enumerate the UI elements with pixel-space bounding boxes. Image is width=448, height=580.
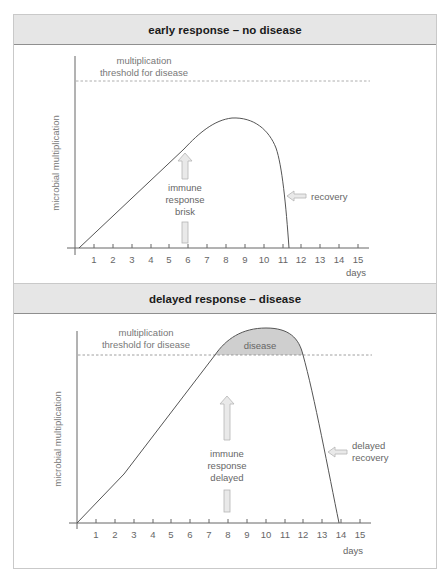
recovery-label-line1: delayed (352, 440, 385, 451)
x-ticks (94, 244, 358, 248)
y-axis-label: microbial multiplication (50, 115, 61, 211)
x-axis-label: days (346, 267, 366, 278)
panel-title: early response – no disease (148, 24, 301, 36)
x-ticks (96, 519, 360, 523)
svg-text:14: 14 (336, 529, 347, 540)
svg-text:2: 2 (112, 529, 117, 540)
svg-text:14: 14 (334, 254, 345, 265)
svg-text:6: 6 (187, 529, 192, 540)
y-axis-label: microbial multiplication (52, 391, 63, 487)
early-response-panel: early response – no disease 12 34 56 78 … (13, 14, 437, 284)
panel-header: early response – no disease (14, 15, 436, 45)
left-arrow-icon (287, 191, 306, 201)
recovery-label: recovery (311, 191, 348, 202)
svg-text:8: 8 (225, 529, 230, 540)
svg-text:15: 15 (353, 254, 364, 265)
x-axis-label: days (343, 545, 363, 556)
growth-curve (77, 328, 339, 523)
svg-text:7: 7 (206, 529, 211, 540)
svg-text:3: 3 (129, 254, 134, 265)
immune-label-line3: delayed (210, 472, 243, 483)
svg-text:8: 8 (223, 254, 228, 265)
svg-text:4: 4 (150, 529, 155, 540)
immune-label-line1: immune (210, 448, 244, 459)
recovery-label-line2: recovery (352, 452, 389, 463)
svg-text:7: 7 (204, 254, 209, 265)
svg-text:1: 1 (93, 529, 98, 540)
svg-text:5: 5 (168, 529, 173, 540)
svg-text:10: 10 (259, 254, 270, 265)
delayed-response-panel: delayed response – disease disease 12 34… (13, 283, 437, 569)
svg-text:1: 1 (91, 254, 96, 265)
svg-text:13: 13 (315, 254, 326, 265)
left-arrow-icon (328, 447, 347, 457)
disease-label: disease (244, 340, 277, 351)
svg-text:9: 9 (242, 254, 247, 265)
svg-text:10: 10 (261, 529, 272, 540)
threshold-label-line2: threshold for disease (102, 339, 190, 350)
early-response-chart: 12 34 56 78 910 1112 1314 15 days microb… (14, 45, 438, 285)
threshold-label-line2: threshold for disease (100, 67, 188, 78)
panel-header: delayed response – disease (14, 284, 436, 314)
x-tick-labels: 12 34 56 78 910 1112 1314 15 (93, 529, 365, 540)
svg-text:3: 3 (131, 529, 136, 540)
immune-label-line2: response (165, 194, 204, 205)
svg-text:4: 4 (148, 254, 153, 265)
svg-text:11: 11 (280, 529, 290, 540)
svg-text:9: 9 (244, 529, 249, 540)
threshold-label-line1: multiplication (117, 55, 172, 66)
svg-text:2: 2 (110, 254, 115, 265)
threshold-label-line1: multiplication (119, 327, 174, 338)
svg-text:15: 15 (355, 529, 366, 540)
svg-text:6: 6 (185, 254, 190, 265)
immune-label-line2: response (207, 460, 246, 471)
svg-text:12: 12 (296, 254, 307, 265)
svg-text:5: 5 (166, 254, 171, 265)
svg-text:13: 13 (317, 529, 328, 540)
svg-text:12: 12 (298, 529, 309, 540)
svg-text:11: 11 (278, 254, 288, 265)
immune-label-line3: brisk (175, 206, 195, 217)
immune-label-line1: immune (168, 182, 202, 193)
delayed-response-chart: disease 12 34 56 78 910 1112 1314 15 day… (14, 314, 438, 569)
x-tick-labels: 12 34 56 78 910 1112 1314 15 (91, 254, 363, 265)
panel-title: delayed response – disease (149, 293, 301, 305)
